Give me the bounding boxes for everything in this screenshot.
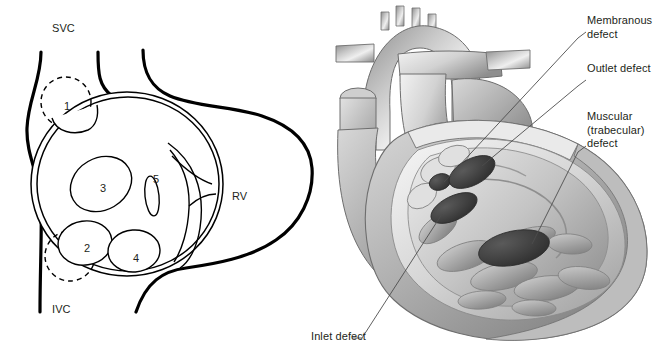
svc-label: SVC	[52, 22, 75, 36]
defect-number-5: 5	[153, 174, 159, 185]
outlet-defect-label: Outlet defect	[587, 62, 651, 76]
muscular-defect-label-line-3: defect	[587, 137, 618, 149]
septal-schematic-panel: SVC IVC RV 1 2 3 4 5	[0, 0, 334, 357]
membranous-defect-label-line-2: defect	[587, 28, 618, 40]
defect-number-4: 4	[133, 253, 139, 264]
descending-aorta	[336, 44, 374, 62]
right-pulmonary-artery	[486, 50, 530, 70]
inlet-defect-label: Inlet defect	[311, 330, 366, 344]
membranous-defect-label: Membranousdefect	[587, 14, 652, 41]
muscular-defect-label-line-2: (trabecular)	[587, 124, 644, 136]
membranous-defect-label-line-1: Membranous	[587, 14, 652, 26]
heart-illustration	[334, 0, 668, 357]
schematic-drawing	[0, 0, 334, 357]
vsd-figure: SVC IVC RV 1 2 3 4 5	[0, 0, 668, 357]
defect-number-1: 1	[64, 101, 70, 112]
outlet-defect-label-line-1: Outlet defect	[587, 62, 651, 74]
defect-number-3: 3	[100, 183, 106, 194]
inlet-defect-label-line-1: Inlet defect	[311, 330, 366, 342]
muscular-defect-label: Muscular(trabecular)defect	[587, 110, 644, 151]
heart-cutaway-panel: Membranousdefect Outlet defect Muscular(…	[334, 0, 668, 357]
ivc-label: IVC	[52, 303, 71, 317]
rv-label: RV	[232, 190, 247, 204]
muscular-defect-label-line-1: Muscular	[587, 110, 632, 122]
defect-number-2: 2	[84, 243, 90, 254]
